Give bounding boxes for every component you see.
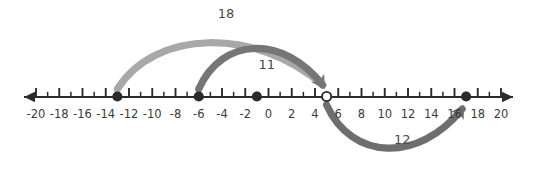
tick-label: 16 bbox=[447, 107, 462, 121]
tick-label: 2 bbox=[288, 107, 295, 121]
tick-label: -20 bbox=[27, 107, 46, 121]
point-filled-neg1 bbox=[252, 91, 262, 101]
arc-label-18: 18 bbox=[218, 6, 235, 21]
number-line-figure: -20-18-16-14-12-10-8-6-4-202468101214161… bbox=[0, 0, 537, 170]
axis-right-arrowhead bbox=[502, 92, 513, 102]
tick-label: 18 bbox=[470, 107, 485, 121]
point-filled-17 bbox=[461, 91, 471, 101]
axis-left-arrowhead bbox=[24, 92, 35, 102]
arc-label-11: 11 bbox=[258, 57, 275, 72]
tick-label: -2 bbox=[240, 107, 251, 121]
tick-label: -14 bbox=[96, 107, 115, 121]
tick-label: -6 bbox=[193, 107, 204, 121]
tick-label: 4 bbox=[311, 107, 318, 121]
tick-label: 6 bbox=[335, 107, 342, 121]
tick-label: 8 bbox=[358, 107, 365, 121]
arc-path bbox=[117, 43, 322, 89]
tick-label: 10 bbox=[377, 107, 392, 121]
arc-18 bbox=[117, 43, 331, 93]
tick-label: -10 bbox=[143, 107, 162, 121]
tick-label: 12 bbox=[401, 107, 416, 121]
point-open-5 bbox=[322, 92, 331, 101]
point-filled-neg13 bbox=[112, 91, 122, 101]
tick-label: 0 bbox=[265, 107, 272, 121]
tick-label: -4 bbox=[216, 107, 227, 121]
arcs-group bbox=[117, 43, 470, 148]
tick-label: 14 bbox=[424, 107, 439, 121]
number-line-canvas: -20-18-16-14-12-10-8-6-4-202468101214161… bbox=[0, 0, 537, 170]
tick-label: 20 bbox=[494, 107, 509, 121]
arc-label-12: 12 bbox=[394, 132, 411, 147]
tick-label: -18 bbox=[50, 107, 69, 121]
tick-labels-group: -20-18-16-14-12-10-8-6-4-202468101214161… bbox=[27, 107, 509, 121]
axis-group bbox=[24, 88, 513, 102]
tick-label: -8 bbox=[170, 107, 181, 121]
tick-label: -16 bbox=[73, 107, 92, 121]
tick-label: -12 bbox=[120, 107, 139, 121]
point-filled-neg6 bbox=[194, 91, 204, 101]
